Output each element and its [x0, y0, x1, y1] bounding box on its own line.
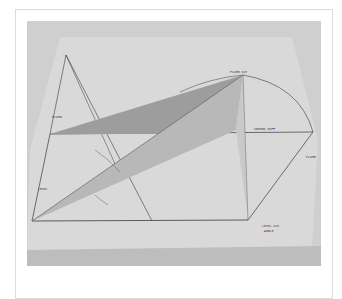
- label-angle: ANGLE: [264, 229, 274, 233]
- label-plumb-rise: PLUMB: [306, 155, 316, 159]
- label-plumb-cut-left: PLUMB: [52, 115, 62, 119]
- label-top: PLUMB CUT: [230, 70, 247, 74]
- label-level-cut-angle: LEVEL CUT: [262, 224, 279, 228]
- photo: LEVEL CUT ANGLE COMMON DIFF PLUMB LEVEL …: [27, 21, 321, 266]
- label-level-cut-left: LEVEL: [38, 187, 48, 191]
- roof-model-illustration: LEVEL CUT ANGLE COMMON DIFF PLUMB LEVEL …: [27, 21, 321, 266]
- label-common-diff: COMMON DIFF: [254, 127, 275, 131]
